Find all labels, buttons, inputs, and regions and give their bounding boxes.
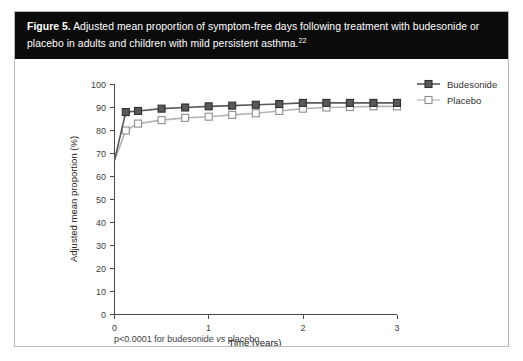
legend-label-placebo: Placebo xyxy=(447,95,481,106)
budesonide-marker xyxy=(229,102,236,109)
chart-footnote: p<0.0001 for budesonide vs placebo xyxy=(114,334,259,344)
budesonide-marker xyxy=(158,105,165,112)
placebo-marker xyxy=(182,114,189,121)
placebo-marker xyxy=(158,117,165,124)
y-tick-label-70: 70 xyxy=(96,149,106,159)
x-tick-label-2: 2 xyxy=(300,323,305,333)
series-budesonide xyxy=(115,99,401,160)
x-tick-label-0: 0 xyxy=(112,323,117,333)
footnote-prefix: p<0.0001 for budesonide xyxy=(114,334,216,344)
chart-legend: Budesonide Placebo xyxy=(417,79,497,106)
placebo-marker xyxy=(276,107,283,114)
y-tick-label-100: 100 xyxy=(91,80,106,90)
x-tick-label-1: 1 xyxy=(206,323,211,333)
budesonide-marker xyxy=(252,101,259,108)
footnote-suffix: placebo xyxy=(225,334,259,344)
y-tick-label-80: 80 xyxy=(96,126,106,136)
y-tick-label-50: 50 xyxy=(96,195,106,205)
chart-plot-area: 100 90 80 70 60 50 40 30 20 10 0 0 xyxy=(15,59,508,346)
figure-reference-superscript: 22 xyxy=(299,36,307,43)
budesonide-marker xyxy=(346,99,353,106)
figure-caption-text-2: placebo in adults and children with mild… xyxy=(27,38,299,49)
figure-caption-bar: Figure 5. Adjusted mean proportion of sy… xyxy=(15,12,508,59)
chart-svg: 100 90 80 70 60 50 40 30 20 10 0 0 xyxy=(15,59,508,346)
budesonide-marker xyxy=(370,99,377,106)
figure-panel: Figure 5. Adjusted mean proportion of sy… xyxy=(14,11,509,347)
y-tick-label-0: 0 xyxy=(101,310,106,320)
y-axis-tick-labels: 100 90 80 70 60 50 40 30 20 10 0 xyxy=(91,80,106,320)
y-axis-title: Adjusted mean proportion (%) xyxy=(68,136,79,262)
placebo-marker xyxy=(205,113,212,120)
legend-placebo-marker xyxy=(425,97,432,104)
legend-budesonide-marker xyxy=(425,81,432,88)
figure-label: Figure 5. xyxy=(27,21,71,32)
figure-caption-text-1: Adjusted mean proportion of symptom-free… xyxy=(73,21,479,32)
placebo-marker xyxy=(135,120,142,127)
budesonide-marker xyxy=(394,99,401,106)
series-placebo xyxy=(115,103,401,161)
x-tick-label-3: 3 xyxy=(394,323,399,333)
y-tick-label-30: 30 xyxy=(96,241,106,251)
budesonide-marker xyxy=(299,99,306,106)
budesonide-marker xyxy=(182,104,189,111)
figure-caption-line-1: Figure 5. Adjusted mean proportion of sy… xyxy=(27,19,496,36)
budesonide-marker xyxy=(323,99,330,106)
y-tick-label-20: 20 xyxy=(96,264,106,274)
y-axis-ticks xyxy=(110,85,115,315)
budesonide-marker xyxy=(205,103,212,110)
placebo-marker xyxy=(252,110,259,117)
x-axis-ticks xyxy=(115,315,398,320)
legend-label-budesonide: Budesonide xyxy=(447,79,497,90)
budesonide-marker xyxy=(135,107,142,114)
placebo-marker xyxy=(122,127,129,134)
budesonide-marker xyxy=(122,109,129,116)
y-tick-label-40: 40 xyxy=(96,218,106,228)
budesonide-marker xyxy=(276,101,283,108)
placebo-marker xyxy=(229,111,236,118)
figure-caption-line-2: placebo in adults and children with mild… xyxy=(27,36,496,53)
y-tick-label-90: 90 xyxy=(96,103,106,113)
y-tick-label-10: 10 xyxy=(96,287,106,297)
y-tick-label-60: 60 xyxy=(96,172,106,182)
x-axis-tick-labels: 0 1 2 3 xyxy=(112,323,400,333)
